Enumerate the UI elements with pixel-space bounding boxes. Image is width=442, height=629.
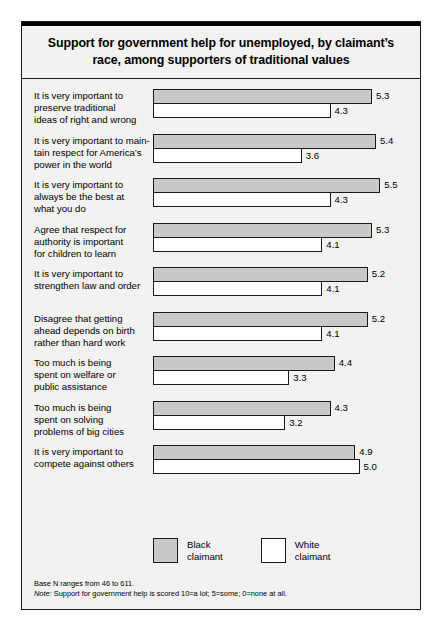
bar-row-label-line: It is very important to [34, 446, 153, 458]
bar-row: It is very important toalways be the bes… [22, 178, 420, 223]
bar-row-label: Too much is beingspent on welfare orpubl… [22, 356, 153, 393]
bar-row: Too much is beingspent on solvingproblem… [22, 401, 420, 446]
bar-value-white-claimant: 4.1 [326, 283, 339, 294]
bar-row-label-line: problems of big cities [34, 426, 153, 438]
bar-group: 5.24.1 [153, 312, 420, 352]
bar-white-claimant [153, 237, 322, 252]
bar-group: 5.34.3 [153, 89, 420, 129]
bar-row-label: Too much is beingspent on solvingproblem… [22, 401, 153, 438]
bar-value-white-claimant: 3.6 [306, 150, 319, 161]
bar-group: 4.33.2 [153, 401, 420, 441]
bar-group: 4.43.3 [153, 356, 420, 396]
bar-black-claimant [153, 356, 335, 371]
bar-row: Disagree that gettingahead depends on bi… [22, 312, 420, 357]
bar-white-claimant [153, 192, 331, 207]
bar-rows: It is very important topreserve traditio… [22, 89, 420, 490]
chart-title: Support for government help for unemploy… [44, 35, 398, 68]
bar-row-label-line: It is very important to main- [34, 135, 153, 147]
bar-row-label-line: authority is important [34, 236, 153, 248]
bar-white-claimant [153, 370, 289, 385]
chart-legend: BlackclaimantWhiteclaimant [153, 538, 368, 563]
bar-value-white-claimant: 4.3 [335, 194, 348, 205]
bar-value-white-claimant: 3.2 [289, 417, 302, 428]
bar-row-label-line: for children to learn [34, 248, 153, 260]
bar-row-label-line: compete against others [34, 458, 153, 470]
bar-value-black-claimant: 4.3 [335, 402, 348, 413]
bar-white-claimant [153, 103, 331, 118]
legend-item: Whiteclaimant [261, 538, 331, 563]
bar-row: It is very important to main-tain respec… [22, 134, 420, 179]
bar-value-white-claimant: 3.3 [293, 372, 306, 383]
bar-row-label-line: ideas of right and wrong [34, 114, 153, 126]
legend-label-line: claimant [295, 551, 331, 563]
bar-value-white-claimant: 4.1 [326, 239, 339, 250]
bar-white-claimant [153, 148, 302, 163]
bar-row-label-line: It is very important to [34, 268, 153, 280]
bar-row-label-line: preserve traditional [34, 102, 153, 114]
bar-row: Too much is beingspent on welfare orpubl… [22, 356, 420, 401]
footnote-base-n: Base N ranges from 46 to 611. [34, 579, 408, 590]
bar-row-label-line: Too much is being [34, 402, 153, 414]
bar-white-claimant [153, 326, 322, 341]
footnotes: Base N ranges from 46 to 611. Note: Supp… [34, 579, 408, 600]
chart-figure: Support for government help for unemploy… [21, 21, 421, 610]
bar-group: 5.54.3 [153, 178, 420, 218]
footnote-note: Note: Support for government help is sco… [34, 589, 408, 600]
legend-item: Blackclaimant [153, 538, 223, 563]
bar-row: Agree that respect forauthority is impor… [22, 223, 420, 268]
bar-row-label: It is very important tocompete against o… [22, 445, 153, 470]
bar-row: It is very important topreserve traditio… [22, 89, 420, 134]
bar-row-label-line: rather than hard work [34, 337, 153, 349]
bar-value-black-claimant: 5.5 [384, 179, 397, 190]
bar-black-claimant [153, 312, 368, 327]
bar-row-label-line: always be the best at [34, 191, 153, 203]
bar-row-label-line: It is very important to [34, 179, 153, 191]
bar-row-label-line: Agree that respect for [34, 224, 153, 236]
bar-value-white-claimant: 4.1 [326, 328, 339, 339]
bar-black-claimant [153, 178, 380, 193]
bar-value-white-claimant: 5.0 [364, 461, 377, 472]
bar-row-label: Disagree that gettingahead depends on bi… [22, 312, 153, 349]
bar-row-label-line: spent on solving [34, 414, 153, 426]
bar-row-label-line: spent on welfare or [34, 369, 153, 381]
legend-label-line: claimant [187, 551, 223, 563]
bar-value-white-claimant: 4.3 [335, 105, 348, 116]
bar-value-black-claimant: 4.9 [359, 446, 372, 457]
bar-value-black-claimant: 5.3 [376, 90, 389, 101]
bar-value-black-claimant: 5.2 [372, 313, 385, 324]
bar-row-label-line: power in the world [34, 159, 153, 171]
bar-group: 4.95.0 [153, 445, 420, 485]
bar-group: 5.24.1 [153, 267, 420, 307]
bar-black-claimant [153, 267, 368, 282]
legend-label-line: White [295, 539, 331, 551]
bar-row-label: It is very important toalways be the bes… [22, 178, 153, 215]
bar-black-claimant [153, 401, 331, 416]
bar-row-label-line: what you do [34, 203, 153, 215]
legend-label-line: Black [187, 539, 223, 551]
bar-group: 5.43.6 [153, 134, 420, 174]
bar-row-label: It is very important to main-tain respec… [22, 134, 153, 171]
bar-value-black-claimant: 5.3 [376, 224, 389, 235]
bar-row: It is very important tocompete against o… [22, 445, 420, 490]
bar-white-claimant [153, 415, 285, 430]
bar-black-claimant [153, 89, 372, 104]
bar-row-label-line: Disagree that getting [34, 313, 153, 325]
legend-label: Whiteclaimant [295, 538, 331, 563]
title-block: Support for government help for unemploy… [22, 26, 420, 79]
footnote-note-prefix: Note: [34, 589, 52, 598]
bar-value-black-claimant: 4.4 [339, 357, 352, 368]
legend-label: Blackclaimant [187, 538, 223, 563]
bar-value-black-claimant: 5.4 [380, 135, 393, 146]
bar-row-label-line: strengthen law and order [34, 280, 153, 292]
bar-black-claimant [153, 134, 376, 149]
bar-black-claimant [153, 445, 355, 460]
bar-row: It is very important tostrengthen law an… [22, 267, 420, 312]
plot-area: It is very important topreserve traditio… [22, 79, 420, 609]
bar-row-label-line: public assistance [34, 381, 153, 393]
bar-row-label-line: Too much is being [34, 357, 153, 369]
bar-value-black-claimant: 5.2 [372, 268, 385, 279]
bar-white-claimant [153, 459, 360, 474]
bar-row-label: It is very important topreserve traditio… [22, 89, 153, 126]
bar-black-claimant [153, 223, 372, 238]
footnote-note-text: Support for government help is scored 10… [52, 589, 287, 598]
